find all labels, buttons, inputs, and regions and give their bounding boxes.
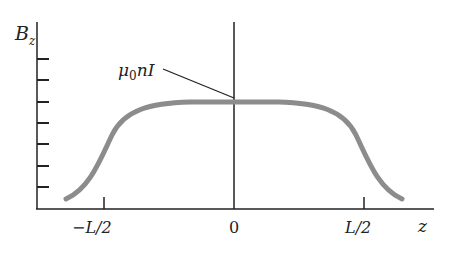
x-tick-label-half-L: L/2 <box>345 218 371 237</box>
y-ticks <box>37 59 49 187</box>
y-axis-label: Bz <box>15 22 35 48</box>
x-axis-label: z <box>418 216 427 236</box>
axes <box>36 22 434 209</box>
x-tick-label-zero: 0 <box>229 218 239 237</box>
mu0-n-i-annotation: μ0nI <box>118 60 154 83</box>
x-tick-label-minus-half-L: −L/2 <box>72 218 112 237</box>
annotation-leader <box>163 69 234 98</box>
